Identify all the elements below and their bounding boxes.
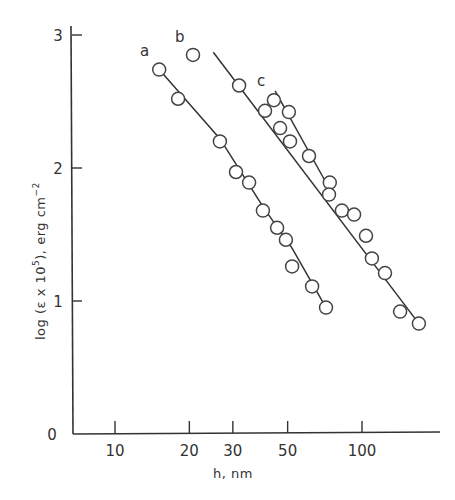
data-point-b [259,104,272,117]
series-label-c: c [257,72,265,90]
x-tick-label: 50 [278,442,297,460]
data-point-b [335,204,348,217]
fit-curves [159,52,419,323]
data-points [153,48,426,330]
data-point-a [279,233,292,246]
series-label-a: a [140,42,149,60]
data-point-b [303,150,316,163]
data-point-a [256,204,269,217]
y-axis-title: log (ε x 105), erg cm−2 [31,182,48,340]
data-point-a [153,63,166,76]
chart: 0123 10203050100 h, nm log (ε x 105), er… [0,0,455,500]
data-point-b [274,122,287,135]
data-point-a [306,280,319,293]
data-point-b [412,317,425,330]
y-tick-label: 0 [47,426,57,444]
data-point-c [282,106,295,119]
x-tick-label: 20 [180,442,199,460]
data-point-b [379,267,392,280]
x-ticks: 10203050100 [105,421,376,460]
data-point-b [323,176,336,189]
data-point-c [267,94,280,107]
data-point-c [394,305,407,318]
x-tick-label: 100 [348,442,377,460]
data-point-b [187,48,200,61]
data-point-a [230,166,243,179]
y-tick-label: 2 [53,160,63,178]
data-point-b [233,79,246,92]
data-point-c [323,188,336,201]
y-tick-label: 3 [53,27,63,45]
data-point-a [271,221,284,234]
fit-line-a [159,70,326,308]
y-tick-label: 1 [53,293,63,311]
data-point-b [284,135,297,148]
data-point-b [360,229,373,242]
x-axis [73,432,440,434]
axes [71,26,440,434]
data-point-a [243,176,256,189]
data-point-b [365,252,378,265]
data-point-a [320,301,333,314]
data-point-a [172,92,185,105]
fit-line-c [275,91,327,184]
y-axis [71,26,73,434]
x-axis-title: h, nm [213,466,253,481]
data-point-c [348,208,361,221]
x-tick-label: 30 [223,442,242,460]
data-point-a [213,135,226,148]
x-tick-label: 10 [105,442,124,460]
data-point-a [286,260,299,273]
y-ticks: 0123 [47,27,82,444]
series-label-b: b [175,28,185,46]
